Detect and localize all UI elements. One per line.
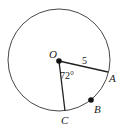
radius-oc [59,61,65,111]
label-a: A [108,72,116,84]
point-b [88,97,94,103]
center-point-o [56,58,62,64]
angle-label: 72° [60,70,74,81]
circle-diagram: O 5 72° A B C [0,0,124,129]
label-c: C [61,114,69,126]
radius-label: 5 [82,55,87,66]
label-b: B [94,103,101,115]
label-o: O [49,48,57,60]
